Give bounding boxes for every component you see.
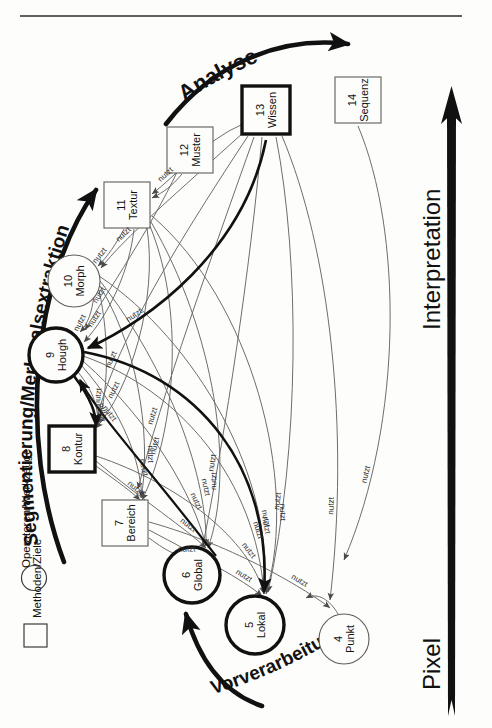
node-number: 10: [62, 275, 74, 287]
node-name: Wissen: [266, 92, 278, 128]
figure-canvas: Vorverarbeitung Segmentierung/Merkmalsex…: [0, 0, 492, 728]
axis-arrow: [441, 86, 462, 716]
axis-arrow-shaft: [447, 108, 456, 716]
node-6-global[interactable]: 6Global: [164, 547, 220, 603]
edge-5-to-4: [306, 596, 338, 614]
edge-label-nutzt: nutzt: [234, 567, 254, 584]
node-8-kontur[interactable]: 8Kontur: [49, 426, 95, 472]
node-name: Global: [192, 559, 204, 591]
node-12-muster[interactable]: 12Muster: [167, 127, 213, 173]
edge-13-to-4: [282, 136, 338, 600]
node-number: 12: [178, 144, 190, 156]
legend-square-icon: [24, 624, 47, 647]
node-name: Punkt: [344, 625, 356, 653]
node-7-bereich[interactable]: 7Bereich: [102, 500, 148, 546]
node-layer: 4Punkt5Lokal6Global7Bereich8Kontur9Hough…: [29, 77, 381, 664]
node-number: 9: [44, 352, 56, 358]
edge-13-to-7: [138, 137, 254, 489]
node-name: Textur: [127, 190, 139, 220]
node-name: Morph: [74, 265, 86, 296]
axis-label-interpretation: Interpretation: [418, 189, 445, 330]
node-number: 5: [243, 622, 255, 628]
node-11-textur[interactable]: 11Textur: [104, 182, 150, 228]
edge-13-to-8: [96, 136, 248, 424]
node-9-hough[interactable]: 9Hough: [29, 328, 83, 382]
node-name: Kontur: [72, 432, 84, 465]
node-name: Sequenz: [358, 78, 370, 121]
node-number: 14: [346, 94, 358, 106]
edge-label-nutzt: nutzt: [146, 406, 160, 426]
edge-11-to-6: [151, 222, 220, 548]
edge-14-to-5: [344, 126, 390, 560]
axis-label-pixel: Pixel: [418, 638, 445, 690]
edge-label-nutzt: nutzt: [278, 504, 287, 522]
edge-label-nutzt: nutzt: [86, 309, 103, 329]
diagram-svg: Vorverarbeitung Segmentierung/Merkmalsex…: [0, 0, 492, 728]
legend-label-methoden: Methoden/Ziele: [31, 539, 43, 618]
edge-label-nutzt: nutzt: [326, 496, 336, 514]
node-4-punkt[interactable]: 4Punkt: [319, 614, 369, 664]
edge-label-nutzt: nutzt: [178, 544, 196, 553]
node-5-lokal[interactable]: 5Lokal: [226, 596, 284, 654]
node-name: Hough: [56, 339, 68, 371]
node-name: Bereich: [125, 504, 137, 541]
node-number: 13: [254, 104, 266, 116]
node-13-wissen[interactable]: 13Wissen: [242, 86, 290, 134]
edge-label-nutzt: nutzt: [290, 572, 310, 589]
node-number: 4: [332, 636, 344, 642]
node-number: 8: [60, 446, 72, 452]
node-number: 7: [113, 520, 125, 526]
edge-label-nutzt: nutzt: [189, 491, 205, 511]
node-14-sequenz[interactable]: 14Sequenz: [335, 77, 381, 123]
node-name: Muster: [190, 133, 202, 167]
edge-label-nutzt: nutzt: [206, 453, 218, 472]
edge-label-nutzt: nutzt: [126, 479, 146, 497]
node-number: 11: [115, 199, 127, 210]
node-number: 6: [180, 572, 192, 578]
node-name: Lokal: [255, 612, 267, 638]
